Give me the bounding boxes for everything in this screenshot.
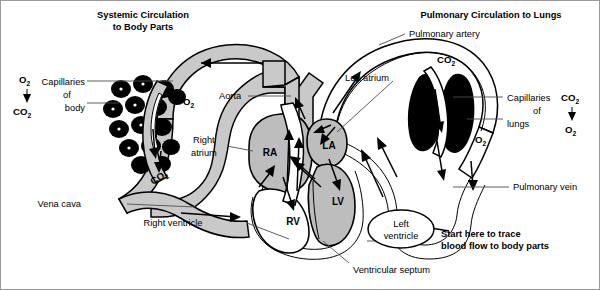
label-aorta: Aorta	[219, 91, 242, 101]
label-capillaries-body-line2: of	[63, 90, 71, 100]
chamber-label-ra: RA	[263, 147, 277, 158]
gas-o2-body: O2	[19, 74, 30, 87]
circulation-diagram: Systemic Circulation to Body Parts Pulmo…	[0, 0, 600, 290]
capillaries-body-cells	[103, 75, 186, 183]
label-pulmonary-artery: Pulmonary artery	[409, 29, 480, 39]
left-ventricle-callout	[368, 210, 434, 248]
title-pulmonary: Pulmonary Circulation to Lungs	[420, 10, 561, 20]
label-capillaries-body-line1: Capillaries	[42, 77, 86, 87]
gas-exchange-body: O2 CO2	[13, 74, 31, 119]
label-right-ventricle: Right ventricle	[144, 218, 203, 228]
chamber-label-lv: LV	[332, 196, 344, 207]
label-capillaries-lungs-line1: Capillaries	[507, 93, 551, 103]
label-right-atrium-line1: Right	[193, 135, 215, 145]
label-left-ventricle-line2: ventricle	[384, 231, 419, 241]
title-systemic-line2: to Body Parts	[113, 22, 173, 32]
label-capillaries-lungs-line3: lungs	[507, 119, 530, 129]
label-ventricular-septum: Ventricular septum	[353, 265, 430, 275]
chamber-label-la: LA	[322, 140, 335, 151]
gas-o2-lungs: O2	[565, 124, 576, 137]
label-left-atrium: Left atrium	[345, 73, 389, 83]
gas-exchange-lungs: CO2 O2	[561, 92, 579, 137]
title-systemic-line1: Systemic Circulation	[97, 10, 189, 20]
label-capillaries-body-line3: body	[65, 103, 86, 113]
gas-o2-body-vessel: O2	[183, 96, 194, 109]
lungs-capillaries	[408, 67, 475, 157]
gas-co2-lungs: CO2	[561, 92, 579, 105]
gas-co2-body: CO2	[13, 106, 31, 119]
label-left-ventricle-line1: Left	[393, 219, 409, 229]
label-pulmonary-vein: Pulmonary vein	[513, 182, 577, 192]
label-start-here-line2: blood flow to body parts	[441, 241, 549, 251]
label-vena-cava: Vena cava	[38, 199, 82, 209]
label-right-atrium-line2: atrium	[191, 148, 217, 158]
label-start-here-line1: Start here to trace	[441, 229, 521, 239]
label-capillaries-lungs-line2: of	[533, 106, 541, 116]
chamber-label-rv: RV	[286, 216, 300, 227]
